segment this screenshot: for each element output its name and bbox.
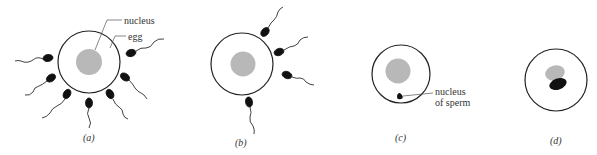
- sperm-nucleus: [397, 93, 403, 99]
- sperm: [259, 7, 283, 38]
- caption-c: (c): [395, 132, 407, 144]
- sperm: [281, 70, 314, 85]
- sperm-nucleus-leader-line: [403, 93, 433, 96]
- sperm: [119, 71, 147, 99]
- sperm: [273, 37, 308, 57]
- sperm-nucleus-label-line1: nucleus: [435, 86, 466, 97]
- panel-d: (d): [525, 49, 587, 147]
- egg-label: egg: [128, 31, 142, 42]
- caption-b: (b): [235, 137, 247, 149]
- nucleus-leader-line: [95, 20, 122, 50]
- sperm: [86, 98, 93, 128]
- egg-nucleus: [76, 49, 102, 75]
- egg-nucleus: [231, 52, 256, 77]
- egg-leader-line: [110, 36, 126, 48]
- panel-c: nucleus of sperm (c): [372, 45, 470, 144]
- panel-b: (b): [211, 7, 314, 149]
- sperm: [104, 88, 128, 119]
- sperm: [15, 54, 54, 63]
- sperm: [42, 88, 73, 118]
- egg-nucleus: [386, 59, 411, 84]
- fertilization-diagram: nucleus egg (a) (b) nucleus: [0, 0, 597, 155]
- caption-d: (d): [550, 135, 562, 147]
- nucleus-label: nucleus: [124, 15, 155, 26]
- sperm: [245, 96, 255, 134]
- sperm: [25, 72, 57, 95]
- sperm-nucleus-label-line2: of sperm: [435, 97, 470, 108]
- caption-a: (a): [83, 132, 95, 144]
- panel-a: nucleus egg (a): [15, 15, 164, 144]
